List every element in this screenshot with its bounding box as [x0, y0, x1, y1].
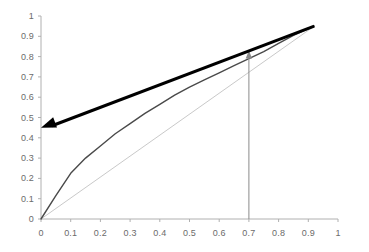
y-axis-tick-label: 0.6	[21, 92, 34, 102]
x-axis-tick-label: 0.1	[64, 228, 77, 238]
x-axis-tick-label: 0.2	[94, 228, 107, 238]
y-axis-tick-label: 0.1	[21, 194, 34, 204]
x-axis-tick-label: 0.4	[153, 228, 166, 238]
x-axis-tick-label: 0	[38, 228, 43, 238]
y-axis-tick-label: 0.4	[21, 133, 34, 143]
vertical-indicator-arrow	[246, 51, 252, 219]
series-diagonal-reference-line	[41, 26, 314, 219]
x-axis-tick-label: 0.5	[183, 228, 196, 238]
y-axis-tick-label: 0.3	[21, 153, 34, 163]
x-axis-tick-label: 0.7	[242, 228, 255, 238]
x-axis-tick-label: 1	[335, 228, 340, 238]
x-axis-tick-label: 0.3	[124, 228, 137, 238]
y-axis-tick-label: 0.5	[21, 113, 34, 123]
tangent-line-shaft	[52, 26, 314, 126]
y-axis-tick-label: 0.2	[21, 173, 34, 183]
x-axis-tick-label: 0.6	[213, 228, 226, 238]
y-axis-tick-label: 0	[29, 214, 34, 224]
chart-container: 00.10.20.30.40.50.60.70.80.91 00.10.20.3…	[0, 0, 369, 252]
x-axis-tick-label: 0.9	[302, 228, 315, 238]
chart-plot-area	[0, 0, 369, 252]
y-axis-tick-label: 0.7	[21, 72, 34, 82]
x-axis-tick-label: 0.8	[272, 228, 285, 238]
thick-tangent-line	[41, 26, 314, 128]
y-axis-tick-label: 0.9	[21, 31, 34, 41]
y-axis-tick-label: 0.8	[21, 52, 34, 62]
y-axis-tick-label: 1	[29, 11, 34, 21]
tangent-arrowhead	[41, 117, 57, 127]
